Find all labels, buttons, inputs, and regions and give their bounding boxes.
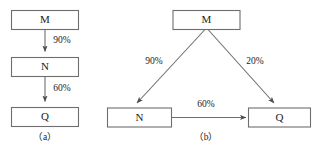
diagram-canvas: M 90% N 60% Q （a） bbox=[0, 0, 319, 153]
edge-a-n-q-label: 60% bbox=[53, 83, 71, 93]
edge-b-m-n-label: 90% bbox=[145, 56, 163, 66]
edge-b-m-n-arrow bbox=[137, 30, 205, 104]
edge-a-m-n-label: 90% bbox=[53, 35, 71, 45]
edge-b-m-q-label: 20% bbox=[246, 56, 264, 66]
edge-a-m-n: 90% bbox=[45, 30, 71, 52]
node-b-n[interactable]: N bbox=[108, 108, 172, 127]
panel-a-caption: （a） bbox=[33, 131, 57, 142]
node-b-m-label: M bbox=[202, 13, 212, 25]
node-b-m[interactable]: M bbox=[173, 11, 240, 30]
edge-b-m-q: 20% bbox=[208, 30, 274, 104]
edge-b-n-q-label: 60% bbox=[197, 99, 215, 109]
edge-b-m-n: 90% bbox=[137, 30, 205, 104]
node-a-m[interactable]: M bbox=[12, 11, 79, 30]
node-b-n-label: N bbox=[136, 111, 144, 123]
panel-b: M 90% 20% N 60% bbox=[108, 11, 311, 143]
panel-b-caption: （b） bbox=[194, 131, 219, 142]
figure-container: M 90% N 60% Q （a） bbox=[0, 0, 319, 153]
edge-b-n-q: 60% bbox=[172, 99, 247, 117]
node-a-n-label: N bbox=[41, 60, 49, 72]
node-b-q[interactable]: Q bbox=[249, 108, 311, 127]
edge-a-n-q: 60% bbox=[45, 77, 71, 102]
node-a-q-label: Q bbox=[41, 110, 49, 122]
panel-a: M 90% N 60% Q （a） bbox=[12, 11, 79, 143]
node-a-n[interactable]: N bbox=[12, 58, 79, 77]
node-a-m-label: M bbox=[40, 13, 50, 25]
node-a-q[interactable]: Q bbox=[12, 108, 79, 127]
edge-b-m-q-arrow bbox=[208, 30, 274, 104]
node-b-q-label: Q bbox=[276, 111, 284, 123]
